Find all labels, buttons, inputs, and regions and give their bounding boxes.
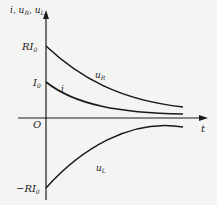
label-uL: uL: [96, 163, 106, 174]
curve-uR: [46, 46, 183, 107]
label-i: i: [61, 84, 64, 94]
tick-RI0: RI0: [21, 41, 37, 53]
curve-i: [46, 82, 183, 114]
label-uR: uR: [95, 70, 106, 81]
curve-uL: [46, 125, 183, 188]
tick-negRI0: −RI0: [16, 183, 40, 195]
rl-circuit-diagram: i, uR, uL t O RI0 I0 −RI0 uR i uL: [0, 0, 217, 205]
origin-label: O: [33, 119, 41, 130]
y-axis-label: i, uR, uL: [10, 5, 44, 16]
x-axis-arrow-icon: [199, 115, 208, 121]
x-axis-label: t: [201, 123, 206, 134]
tick-I0: I0: [32, 77, 41, 89]
